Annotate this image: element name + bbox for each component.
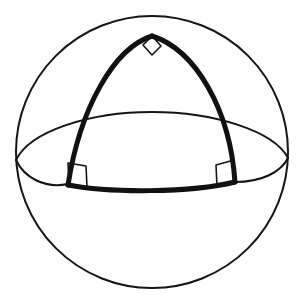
spherical-triangle-diagram: Spherical triangle with three right angl… (0, 0, 304, 295)
sphere-outline-circle (16, 16, 288, 288)
sphere-diagram-svg: Spherical triangle with three right angl… (0, 0, 304, 295)
